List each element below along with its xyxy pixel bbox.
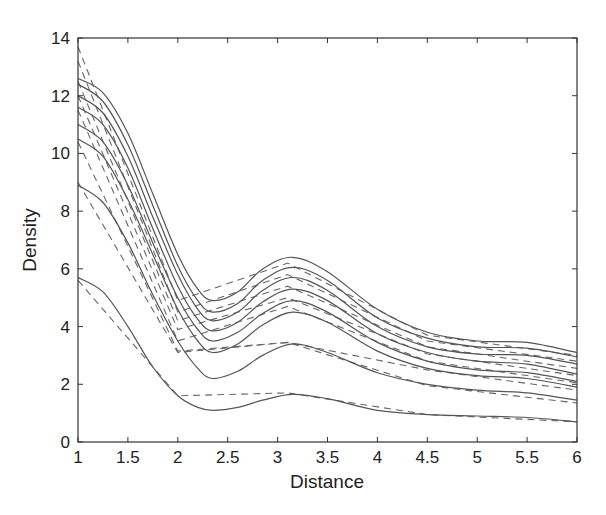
plot-frame <box>78 38 577 442</box>
dashed-line-7 <box>78 182 577 403</box>
dashed-line-2 <box>78 61 577 361</box>
y-tick-label: 4 <box>61 318 70 337</box>
x-tick-label: 6 <box>572 448 581 467</box>
y-axis-label: Density <box>19 208 40 272</box>
y-tick-label: 6 <box>61 260 70 279</box>
y-tick-label: 0 <box>61 433 70 452</box>
y-tick-label: 10 <box>51 144 70 163</box>
solid-line-1 <box>78 78 577 352</box>
solid-line-2 <box>78 84 577 357</box>
plot-lines <box>78 47 577 422</box>
x-tick-label: 4.5 <box>415 448 439 467</box>
dashed-line-3 <box>78 81 577 368</box>
x-tick-label: 3 <box>273 448 282 467</box>
y-tick-label: 2 <box>61 375 70 394</box>
x-tick-label: 1 <box>73 448 82 467</box>
y-tick-label: 8 <box>61 202 70 221</box>
x-tick-label: 1.5 <box>116 448 140 467</box>
x-tick-label: 3.5 <box>316 448 340 467</box>
y-axis-ticks: 02468101214 <box>51 29 577 452</box>
x-tick-label: 4 <box>373 448 382 467</box>
x-tick-label: 2 <box>173 448 182 467</box>
chart: 11.522.533.544.555.56 02468101214 Distan… <box>0 0 606 515</box>
dashed-line-4 <box>78 96 577 376</box>
solid-line-6 <box>78 139 577 387</box>
x-tick-label: 5.5 <box>515 448 539 467</box>
x-axis-label: Distance <box>290 471 364 492</box>
x-tick-label: 5 <box>472 448 481 467</box>
x-tick-label: 2.5 <box>216 448 240 467</box>
solid-line-4 <box>78 107 577 374</box>
y-tick-label: 14 <box>51 29 70 48</box>
y-tick-label: 12 <box>51 87 70 106</box>
solid-line-5 <box>78 125 577 382</box>
